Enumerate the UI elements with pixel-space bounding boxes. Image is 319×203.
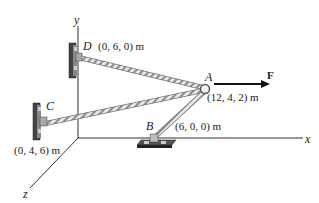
bracket-b [137,134,176,148]
point-c-coords: (0, 4, 6) m [14,145,60,156]
bracket-c [33,103,47,140]
z-axis-label: z [23,188,28,200]
point-b-coords: (6, 0, 0) m [175,121,221,132]
force-label: F [267,70,274,81]
x-axis-label: x [305,133,310,145]
point-a-label: A [205,71,212,83]
point-d-label: D [83,40,92,52]
point-d-coords: (0, 6, 0) m [98,41,144,52]
point-a-coords: (12, 4, 2) m [207,92,259,103]
bracket-d [69,43,82,78]
point-c-label: C [46,100,54,112]
y-axis-label: y [74,14,79,26]
point-b-label: B [146,120,153,132]
force-arrow [214,80,270,88]
